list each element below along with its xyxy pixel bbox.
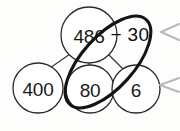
node-ones-label: 6 <box>131 80 141 101</box>
node-hundreds[interactable]: 400 <box>13 63 63 113</box>
node-hundreds-label: 400 <box>22 79 53 100</box>
caret-upper-icon <box>161 24 179 40</box>
connector-root-to-hundreds <box>50 54 70 68</box>
diagram-svg: 486 400 80 6 − 30 <box>0 0 180 131</box>
node-root[interactable]: 486 <box>61 7 117 63</box>
caret-lower-icon <box>160 78 179 92</box>
node-tens-label: 80 <box>80 80 101 101</box>
connector-root-to-ones <box>108 54 124 70</box>
annotation-minus-thirty: − 30 <box>110 24 149 45</box>
diagram-canvas: 486 400 80 6 − 30 <box>0 0 180 131</box>
